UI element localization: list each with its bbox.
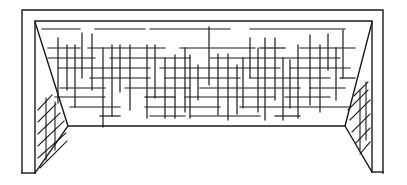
goal-drawing (0, 0, 407, 185)
left-side-net-strand (38, 113, 60, 134)
right-side-net-strand (360, 142, 370, 154)
left-side-net-strand (38, 95, 52, 110)
left-side-net-strand (40, 141, 67, 168)
goal-illustration (0, 0, 407, 185)
frame-outer (22, 10, 383, 173)
goal-frame (22, 10, 383, 173)
goal-net-back (42, 27, 355, 127)
right-side-net-strand (352, 114, 370, 132)
left-side-net-strand (38, 121, 64, 146)
right-side-net-strand (348, 90, 368, 110)
frame-right-side-diagonal (345, 22, 372, 172)
right-side-net-strand (356, 128, 370, 143)
